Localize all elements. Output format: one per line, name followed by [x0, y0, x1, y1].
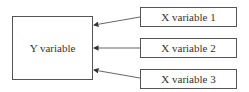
x-variable-1-label: X variable 1 [161, 11, 215, 23]
arrow-x1-to-y [94, 17, 140, 25]
y-variable-box: Y variable [12, 16, 93, 80]
x-variable-3-label: X variable 3 [161, 73, 215, 85]
x-variable-1-box: X variable 1 [140, 7, 237, 27]
x-variable-2-label: X variable 2 [161, 42, 215, 54]
x-variable-2-box: X variable 2 [140, 38, 237, 58]
y-variable-label: Y variable [30, 42, 76, 54]
x-variable-3-box: X variable 3 [140, 69, 237, 89]
arrow-x3-to-y [94, 70, 140, 78]
